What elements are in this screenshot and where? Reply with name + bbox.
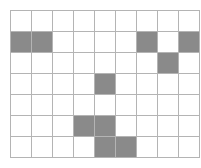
grid-cell-filled[interactable] [74, 116, 95, 137]
grid-cell-empty[interactable] [53, 53, 74, 74]
grid-cell-empty[interactable] [116, 32, 137, 53]
grid-cell-empty[interactable] [74, 32, 95, 53]
grid-cell-filled[interactable] [11, 32, 32, 53]
grid-cell-empty[interactable] [32, 11, 53, 32]
grid-cell-empty[interactable] [95, 32, 116, 53]
grid-cell-empty[interactable] [179, 137, 200, 158]
grid-cell-empty[interactable] [53, 137, 74, 158]
grid-cell-empty[interactable] [74, 11, 95, 32]
grid-cell-filled[interactable] [137, 32, 158, 53]
grid-cell-empty[interactable] [32, 53, 53, 74]
grid-cell-empty[interactable] [53, 32, 74, 53]
grid-cell-filled[interactable] [95, 74, 116, 95]
grid-cell-empty[interactable] [32, 74, 53, 95]
grid-cell-empty[interactable] [116, 53, 137, 74]
grid-cell-empty[interactable] [95, 53, 116, 74]
grid-row [11, 95, 200, 116]
grid-row [11, 11, 200, 32]
grid-body [11, 11, 200, 158]
grid-container [10, 10, 190, 150]
grid-cell-empty[interactable] [74, 74, 95, 95]
grid-cell-empty[interactable] [74, 137, 95, 158]
grid-cell-empty[interactable] [137, 116, 158, 137]
grid-cell-empty[interactable] [53, 116, 74, 137]
grid-cell-empty[interactable] [53, 95, 74, 116]
grid-row [11, 53, 200, 74]
grid-cell-empty[interactable] [158, 11, 179, 32]
grid-cell-filled[interactable] [179, 32, 200, 53]
grid-row [11, 32, 200, 53]
grid-cell-empty[interactable] [179, 74, 200, 95]
grid-cell-empty[interactable] [137, 74, 158, 95]
grid-cell-empty[interactable] [179, 53, 200, 74]
grid-cell-empty[interactable] [158, 32, 179, 53]
grid-row [11, 137, 200, 158]
grid-cell-empty[interactable] [11, 95, 32, 116]
grid-cell-empty[interactable] [116, 74, 137, 95]
grid-cell-empty[interactable] [158, 116, 179, 137]
grid-cell-empty[interactable] [179, 11, 200, 32]
grid-cell-empty[interactable] [179, 116, 200, 137]
grid-cell-empty[interactable] [74, 53, 95, 74]
grid-cell-empty[interactable] [116, 116, 137, 137]
grid-cell-filled[interactable] [95, 116, 116, 137]
grid-cell-empty[interactable] [32, 137, 53, 158]
grid-cell-empty[interactable] [137, 53, 158, 74]
grid-cell-empty[interactable] [11, 53, 32, 74]
grid-cell-empty[interactable] [53, 11, 74, 32]
grid-cell-empty[interactable] [32, 95, 53, 116]
figure-canvas [0, 0, 201, 168]
grid-cell-empty[interactable] [11, 74, 32, 95]
grid-cell-empty[interactable] [53, 74, 74, 95]
grid-cell-empty[interactable] [116, 11, 137, 32]
grid-cell-empty[interactable] [95, 95, 116, 116]
grid-cell-empty[interactable] [116, 95, 137, 116]
grid-row [11, 74, 200, 95]
grid-cell-empty[interactable] [158, 74, 179, 95]
grid-cell-empty[interactable] [11, 11, 32, 32]
grid-cell-empty[interactable] [158, 137, 179, 158]
grid-cell-empty[interactable] [95, 11, 116, 32]
grid-cell-empty[interactable] [179, 95, 200, 116]
grid-row [11, 116, 200, 137]
grid-cell-empty[interactable] [137, 11, 158, 32]
grid-cell-filled[interactable] [158, 53, 179, 74]
grid-cell-filled[interactable] [116, 137, 137, 158]
lattice-grid [10, 10, 200, 158]
grid-cell-empty[interactable] [137, 137, 158, 158]
grid-cell-empty[interactable] [11, 137, 32, 158]
grid-cell-empty[interactable] [137, 95, 158, 116]
grid-cell-empty[interactable] [74, 95, 95, 116]
grid-cell-empty[interactable] [158, 95, 179, 116]
grid-cell-empty[interactable] [32, 116, 53, 137]
grid-cell-filled[interactable] [32, 32, 53, 53]
grid-cell-filled[interactable] [95, 137, 116, 158]
grid-cell-empty[interactable] [11, 116, 32, 137]
